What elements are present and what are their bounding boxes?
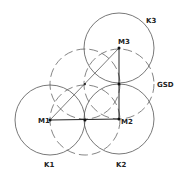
midpoint-dot-m2-m3 [118, 83, 121, 86]
center-dot-m3 [118, 47, 121, 50]
circle-construction-diagram: M1 M2 M3 K1 K2 K3 GSD [0, 0, 181, 178]
label-gsd: GSD [157, 81, 174, 89]
label-m1: M1 [38, 117, 50, 125]
midpoint-dot-m1-m2 [84, 119, 87, 122]
label-k1: K1 [44, 161, 54, 169]
label-k3: K3 [146, 17, 156, 25]
label-m2: M2 [121, 118, 133, 126]
midpoint-dot-m1-m3 [84, 83, 86, 85]
label-k2: K2 [116, 161, 126, 169]
label-m3: M3 [118, 38, 130, 46]
